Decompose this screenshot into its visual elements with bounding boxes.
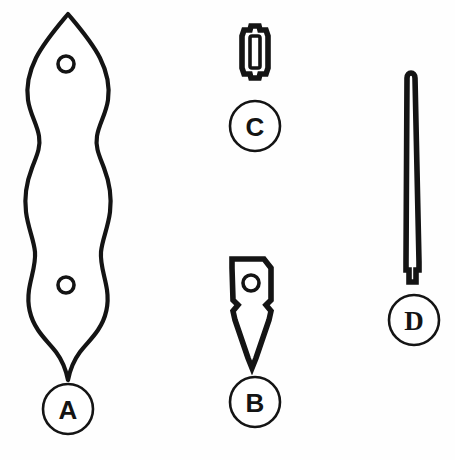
artifact-d-outline: [406, 73, 419, 282]
artifact-c-inner-slot: [250, 36, 260, 68]
artifact-c-label[interactable]: C: [230, 101, 280, 151]
artifact-d-label[interactable]: D: [389, 295, 439, 345]
artifact-a-hole-lower: [58, 277, 74, 293]
artifact-c[interactable]: [242, 26, 268, 78]
artifact-a-label[interactable]: A: [43, 384, 93, 434]
artifact-d-label-text: D: [404, 306, 424, 336]
artifact-b-label[interactable]: B: [230, 377, 280, 427]
artifact-d[interactable]: [406, 73, 419, 282]
artifact-illustration-svg: A B C D: [0, 0, 455, 460]
artifact-a-label-text: A: [59, 395, 78, 425]
artifact-b-label-text: B: [246, 388, 265, 418]
artifact-b-hole: [243, 275, 259, 291]
artifact-a-hole-upper: [58, 56, 74, 72]
figure-plate: A B C D: [0, 0, 455, 460]
artifact-a[interactable]: [25, 14, 110, 380]
artifact-c-label-text: C: [246, 112, 265, 142]
